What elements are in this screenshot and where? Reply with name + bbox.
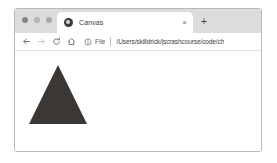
globe-icon: [64, 18, 73, 27]
url-text[interactable]: /Users/skilldrick/jscrashcourse/code/ch: [116, 38, 224, 45]
info-circle-icon[interactable]: [84, 38, 92, 46]
maximize-window-button[interactable]: [46, 17, 52, 23]
address-bar[interactable]: File /Users/skilldrick/jscrashcourse/cod…: [84, 35, 261, 49]
back-arrow-icon[interactable]: [19, 34, 34, 49]
reload-icon[interactable]: [49, 34, 64, 49]
close-icon[interactable]: ×: [182, 19, 188, 27]
triangle-shape: [29, 65, 87, 124]
new-tab-button[interactable]: +: [199, 17, 209, 27]
browser-toolbar: File /Users/skilldrick/jscrashcourse/cod…: [15, 33, 261, 51]
tab-canvas[interactable]: Canvas ×: [57, 12, 193, 33]
tab-strip: Canvas × +: [15, 9, 261, 33]
home-icon[interactable]: [64, 34, 79, 49]
canvas-element: [15, 51, 261, 151]
minimize-window-button[interactable]: [34, 17, 40, 23]
tab-title: Canvas: [79, 19, 182, 26]
page-content-canvas: [15, 51, 261, 151]
omnibox-divider: [110, 37, 111, 46]
window-controls: [22, 17, 52, 23]
browser-window: Canvas × +: [14, 8, 262, 152]
url-scheme-label: File: [95, 38, 105, 45]
close-window-button[interactable]: [22, 17, 28, 23]
forward-arrow-icon[interactable]: [34, 34, 49, 49]
screenshot-root: Canvas × +: [0, 0, 277, 163]
